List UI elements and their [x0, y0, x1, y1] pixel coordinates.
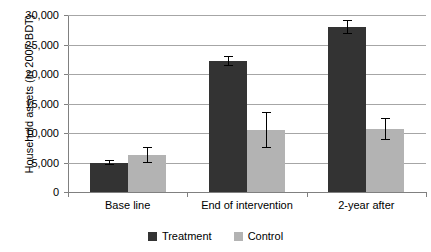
bar-treatment [90, 163, 128, 193]
bar-treatment [209, 61, 247, 192]
y-tick-label: 5,000 [1, 158, 59, 169]
gridline [68, 45, 426, 46]
y-tick-label: 10,000 [1, 128, 59, 139]
error-bar [385, 118, 386, 140]
error-bar-cap-top [143, 147, 152, 148]
bar-chart: Household assets (in 2007 BDT) 05,00010,… [0, 0, 431, 252]
error-bar-cap-bottom [262, 147, 271, 148]
legend-swatch-control-icon [234, 232, 243, 241]
error-bar-cap-top [343, 20, 352, 21]
x-tick-mark [307, 192, 308, 197]
error-bar-cap-bottom [224, 65, 233, 66]
y-tick-label: 30,000 [1, 10, 59, 21]
plot-area [68, 15, 426, 192]
error-bar-cap-top [262, 112, 271, 113]
bar-treatment [328, 27, 366, 192]
y-tick-label: 15,000 [1, 99, 59, 110]
y-tick-mark [64, 74, 68, 75]
x-tick-mark [187, 192, 188, 197]
x-tick-label: 2-year after [276, 199, 431, 212]
error-bar-cap-bottom [143, 162, 152, 163]
y-tick-mark [64, 15, 68, 16]
y-tick-label: 0 [1, 187, 59, 198]
y-tick-mark [64, 163, 68, 164]
x-axis-line [68, 192, 427, 193]
error-bar-cap-top [224, 56, 233, 57]
legend-item-treatment: Treatment [148, 230, 212, 243]
error-bar-cap-bottom [343, 33, 352, 34]
y-tick-mark [64, 133, 68, 134]
legend-label-control: Control [248, 230, 283, 243]
y-tick-mark [64, 45, 68, 46]
error-bar [266, 112, 267, 149]
legend: Treatment Control [0, 230, 431, 243]
error-bar [109, 160, 110, 165]
error-bar-cap-top [105, 160, 114, 161]
error-bar [228, 56, 229, 65]
gridline [68, 74, 426, 75]
y-tick-label: 25,000 [1, 40, 59, 51]
y-tick-mark [64, 104, 68, 105]
error-bar [147, 147, 148, 164]
error-bar-cap-bottom [105, 164, 114, 165]
gridline [68, 15, 426, 16]
legend-swatch-treatment-icon [148, 232, 157, 241]
y-tick-label: 20,000 [1, 69, 59, 80]
x-tick-mark [426, 192, 427, 197]
legend-label-treatment: Treatment [162, 230, 212, 243]
gridline [68, 104, 426, 105]
error-bar [347, 20, 348, 34]
x-tick-mark [68, 192, 69, 197]
legend-item-control: Control [234, 230, 283, 243]
error-bar-cap-top [381, 118, 390, 119]
error-bar-cap-bottom [381, 139, 390, 140]
